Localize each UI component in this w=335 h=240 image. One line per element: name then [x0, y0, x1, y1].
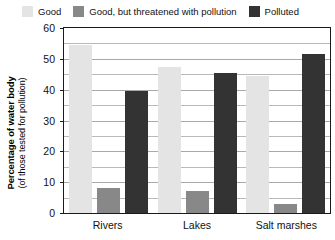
bar-group — [153, 28, 242, 213]
x-axis-label: Salt marshes — [242, 216, 331, 236]
bar — [158, 67, 181, 213]
y-axis-tick-label: 40 — [0, 85, 55, 95]
y-axis-tick-label: 30 — [0, 116, 55, 126]
chart-legend: GoodGood, but threatened with pollutionP… — [0, 2, 335, 20]
y-axis-tick-mark — [60, 213, 64, 214]
x-axis-label: Rivers — [63, 216, 152, 236]
y-axis-tick-label: 50 — [0, 54, 55, 64]
legend-item: Good — [22, 6, 61, 17]
legend-swatch-threatened — [73, 6, 84, 17]
legend-item: Polluted — [249, 6, 299, 17]
legend-swatch-polluted — [249, 6, 260, 17]
bar-group — [64, 28, 153, 213]
bar-chart-figure: GoodGood, but threatened with pollutionP… — [0, 0, 335, 240]
y-axis-tick-label: 10 — [0, 177, 55, 187]
bar-groups — [64, 28, 330, 213]
x-axis-label: Lakes — [152, 216, 241, 236]
plot-area: 0102030405060 — [63, 27, 331, 214]
bar — [274, 204, 297, 213]
bar — [69, 45, 92, 213]
legend-swatch-good — [22, 6, 33, 17]
bar-group — [241, 28, 330, 213]
y-axis-tick-label: 60 — [0, 23, 55, 33]
bar — [97, 188, 120, 213]
legend-item: Good, but threatened with pollution — [73, 6, 236, 17]
bar — [214, 73, 237, 213]
bar — [125, 91, 148, 213]
bar — [186, 191, 209, 213]
legend-item-label: Good — [38, 6, 61, 17]
bar — [246, 76, 269, 213]
x-axis-labels: RiversLakesSalt marshes — [63, 216, 331, 236]
y-axis-tick-label: 0 — [0, 208, 55, 218]
y-axis-tick-label: 20 — [0, 146, 55, 156]
bar — [302, 54, 325, 213]
legend-item-label: Polluted — [265, 6, 299, 17]
legend-item-label: Good, but threatened with pollution — [89, 6, 236, 17]
